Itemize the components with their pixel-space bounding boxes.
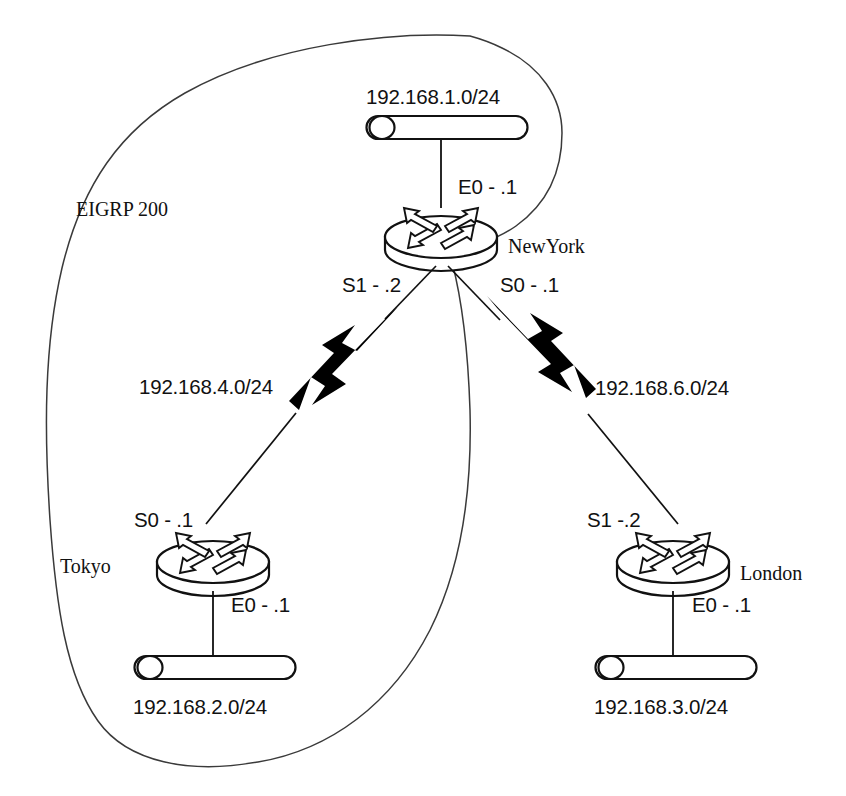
london-s1-label: S1 -.2 (587, 508, 641, 531)
tokyo-s0-label: S0 - .1 (134, 508, 193, 531)
router-newyork[interactable] (385, 208, 497, 271)
router-london[interactable] (617, 533, 729, 596)
lan-tokyo-segment (135, 656, 296, 679)
router-london-label: London (740, 562, 802, 584)
wan-newyork-tokyo-network-label: 192.168.4.0/24 (139, 375, 273, 398)
eigrp-domain-boundary (46, 35, 562, 767)
lan-tokyo-network-label: 192.168.2.0/24 (133, 695, 267, 718)
router-tokyo-label: Tokyo (60, 555, 111, 578)
router-newyork-label: NewYork (508, 235, 585, 257)
lan-newyork-segment (367, 116, 528, 139)
lan-newyork-network-label: 192.168.1.0/24 (366, 85, 500, 108)
topology-canvas: EIGRP 200 192.168.1.0/24 E0 - .1 NewYork… (0, 0, 846, 796)
tokyo-e0-label: E0 - .1 (231, 593, 290, 616)
wan-newyork-london-network-label: 192.168.6.0/24 (595, 376, 729, 399)
lan-london-segment (596, 656, 757, 679)
network-diagram: EIGRP 200 192.168.1.0/24 E0 - .1 NewYork… (0, 0, 846, 796)
lan-london-network-label: 192.168.3.0/24 (594, 695, 728, 718)
newyork-e0-label: E0 - .1 (458, 175, 517, 198)
eigrp-domain-label: EIGRP 200 (76, 198, 168, 220)
london-e0-label: E0 - .1 (692, 593, 751, 616)
newyork-s0-label: S0 - .1 (500, 273, 559, 296)
router-tokyo[interactable] (157, 533, 269, 596)
newyork-s1-label: S1 - .2 (342, 273, 401, 296)
